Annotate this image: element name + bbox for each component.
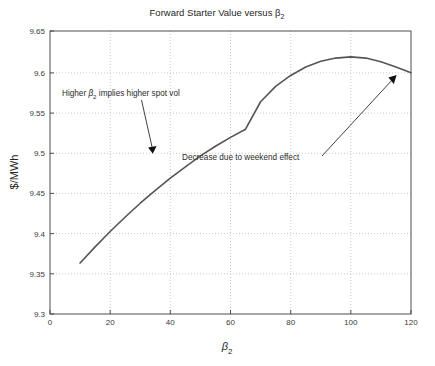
y-axis-label: $/MWh: [8, 155, 20, 190]
y-tick-label: 9.4: [34, 230, 46, 239]
x-tick-label: 100: [344, 318, 358, 327]
x-tick-label: 120: [404, 318, 418, 327]
x-tick-label: 0: [48, 318, 53, 327]
annot1-post: implies higher spot vol: [97, 89, 180, 98]
y-tick-label: 9.45: [29, 189, 45, 198]
annot1-pre: Higher: [62, 89, 88, 98]
y-tick-label: 9.55: [29, 109, 45, 118]
y-tick-label: 9.35: [29, 270, 45, 279]
chart-plot: Forward Starter Value versus β2: [0, 0, 435, 366]
x-axis-label-subscript: 2: [228, 347, 233, 356]
chart-title-subscript: 2: [281, 13, 285, 20]
x-tick-label: 40: [166, 318, 175, 327]
annotation-weekend-effect-label: Decrease due to weekend effect: [182, 153, 300, 162]
y-tick-label: 9.3: [34, 310, 46, 319]
x-tick-label: 60: [226, 318, 235, 327]
chart-title-text: Forward Starter Value versus β: [150, 7, 281, 18]
y-tick-label: 9.5: [34, 149, 46, 158]
figure-canvas: Forward Starter Value versus β2: [0, 0, 435, 366]
x-tick-label: 80: [286, 318, 295, 327]
y-tick-label: 9.65: [29, 27, 45, 36]
figure-background: [0, 0, 435, 366]
y-tick-label: 9.6: [34, 69, 46, 78]
x-tick-label: 20: [106, 318, 115, 327]
